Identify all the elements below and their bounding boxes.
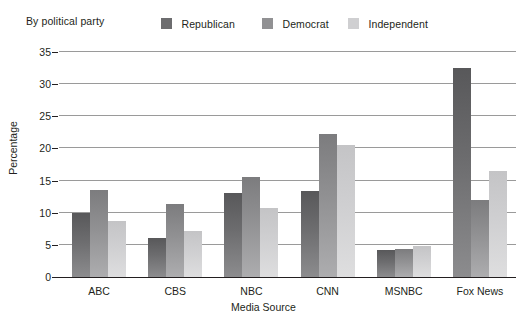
y-axis-tick-mark [52,116,58,117]
y-axis-tick-marks [0,52,59,278]
gridline [59,180,516,181]
legend-title: By political party [26,15,104,27]
bar [260,208,278,277]
legend-swatch-independent [348,18,359,29]
legend-label-democrat: Democrat [282,18,328,30]
gridline [59,115,516,116]
legend-label-republican: Republican [181,18,235,30]
y-axis-tick-mark [52,245,58,246]
legend-swatch-republican [161,18,172,29]
x-axis-tick-label: MSNBC [364,285,444,297]
y-axis-tick-mark [52,84,58,85]
x-axis-line [57,277,516,278]
x-axis-title: Media Source [0,301,527,313]
bar [184,231,202,277]
bar [242,177,260,277]
bar-group [148,52,202,277]
gridline [59,147,516,148]
chart-legend: By political party Republican Democrat I… [0,0,527,36]
bar [489,171,507,277]
y-axis-tick-mark [52,52,58,53]
x-axis-tick-label: ABC [59,285,139,297]
bar [301,191,319,277]
bar-group [224,52,278,277]
bar [471,200,489,277]
bar [319,134,337,277]
y-axis-tick-mark [52,213,58,214]
x-axis-tick-label: Fox News [440,285,520,297]
gridline [59,212,516,213]
bar-group [72,52,126,277]
legend-item-republican: Republican [161,14,235,27]
bar-chart: By political party Republican Democrat I… [0,0,527,318]
gridline [59,51,516,52]
legend-item-democrat: Democrat [262,14,329,27]
bar [453,68,471,277]
x-axis-tick-label: CNN [288,285,368,297]
bar [72,213,90,277]
bar [413,246,431,278]
gridline [59,83,516,84]
gridline [59,244,516,245]
x-axis-tick-label: CBS [135,285,215,297]
legend-label-independent: Independent [368,18,428,30]
bar [337,145,355,277]
bar-group [377,52,431,277]
bar-group [301,52,355,277]
legend-swatch-democrat [262,18,273,29]
bar [377,250,395,277]
bar [148,238,166,277]
bar [108,221,126,277]
bar [395,249,413,277]
y-axis-tick-mark [52,148,58,149]
bar [224,193,242,277]
x-axis-tick-label: NBC [211,285,291,297]
legend-item-independent: Independent [348,14,428,27]
bar-group [453,52,507,277]
bar [166,204,184,277]
y-axis-tick-mark [52,181,58,182]
plot-area [59,52,516,277]
bar [90,190,108,277]
